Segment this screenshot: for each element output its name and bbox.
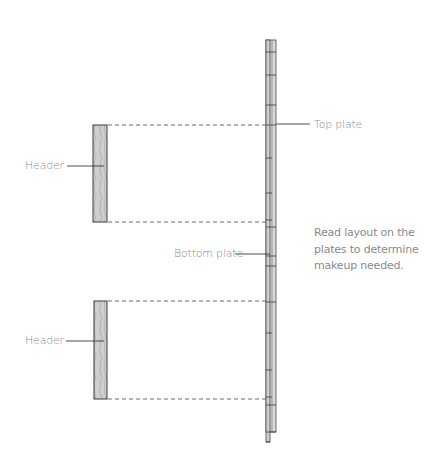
header-top-block [93,125,107,222]
header-top-label: Header [25,159,64,172]
projection-lines [108,125,266,399]
note-line-1: Read layout on the [314,225,419,242]
wall-plates [266,40,276,442]
note-line-3: makeup needed. [314,258,419,275]
note-line-2: plates to determine [314,242,419,259]
header-bottom-block [94,301,107,399]
bottom-plate-label: Bottom plate [174,247,243,260]
header-bottom-label: Header [25,334,64,347]
top-plate-label: Top plate [314,118,362,131]
layout-note: Read layout on the plates to determine m… [314,225,419,275]
framing-layout-diagram: Header Header Top plate Bottom plate Rea… [0,0,425,475]
